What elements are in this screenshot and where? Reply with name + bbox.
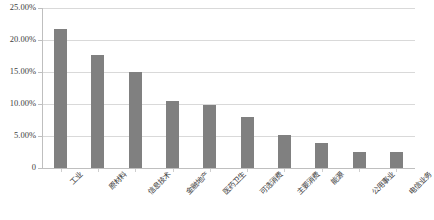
bar[interactable] <box>203 105 216 168</box>
x-axis-tick-mark <box>322 169 323 172</box>
x-axis-tick-label: 医药卫生 <box>222 171 247 196</box>
x-axis-tick-label: 能源 <box>330 171 346 187</box>
y-axis-tick-mark <box>38 136 42 137</box>
y-axis-tick-mark <box>38 8 42 9</box>
y-axis-tick-mark <box>38 72 42 73</box>
y-axis-labels: 25.00%20.00%15.00%10.00%5.00%0 <box>0 0 36 220</box>
x-axis-tick-mark <box>173 169 174 172</box>
y-axis-tick-label: 0 <box>32 163 36 172</box>
x-axis-tick-label: 信息技术 <box>147 171 172 196</box>
x-axis-tick-mark <box>210 169 211 172</box>
x-axis-tick-label: 可选消费 <box>259 171 284 196</box>
x-axis-tick-mark <box>135 169 136 172</box>
y-axis-tick-mark <box>38 168 42 169</box>
y-axis-tick-label: 15.00% <box>10 67 36 76</box>
bar[interactable] <box>129 72 142 168</box>
x-axis-labels: 工业原材料信息技术金融地产医药卫生可选消费主要消费能源公用事业电信业务 <box>42 169 415 220</box>
x-axis-tick-label: 金融地产 <box>185 171 210 196</box>
x-axis-tick-mark <box>396 169 397 172</box>
x-axis-tick-label: 工业 <box>69 171 85 187</box>
x-axis-tick-mark <box>61 169 62 172</box>
x-axis-tick-mark <box>98 169 99 172</box>
y-axis-tick-label: 5.00% <box>14 131 36 140</box>
x-axis-tick-label: 电信业务 <box>409 171 434 196</box>
x-axis-tick-mark <box>247 169 248 172</box>
y-axis-tick-mark <box>38 40 42 41</box>
y-axis-tick-mark <box>38 104 42 105</box>
bar[interactable] <box>353 152 366 168</box>
bar[interactable] <box>278 135 291 168</box>
bar[interactable] <box>241 117 254 168</box>
y-axis-tick-label: 25.00% <box>10 3 36 12</box>
bars-layer <box>42 8 415 168</box>
x-axis-tick-label: 原材料 <box>108 171 129 192</box>
x-axis-tick-mark <box>359 169 360 172</box>
y-axis-tick-label: 20.00% <box>10 35 36 44</box>
x-axis-tick-mark <box>284 169 285 172</box>
bar[interactable] <box>54 29 67 168</box>
x-axis-tick-label: 公用事业 <box>371 171 396 196</box>
bar[interactable] <box>166 101 179 168</box>
bar[interactable] <box>91 55 104 168</box>
bar[interactable] <box>315 143 328 168</box>
bar[interactable] <box>390 152 403 168</box>
x-axis-tick-label: 主要消费 <box>297 171 322 196</box>
y-axis-tick-label: 10.00% <box>10 99 36 108</box>
